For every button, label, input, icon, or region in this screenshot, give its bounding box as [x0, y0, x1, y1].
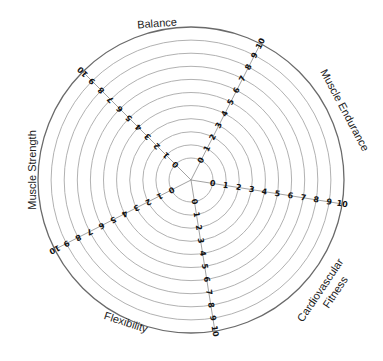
tick-label: 4 — [198, 250, 208, 257]
tick-label: 5 — [274, 189, 281, 199]
tick-label: 3 — [132, 203, 141, 214]
tick-label: 10 — [47, 243, 61, 256]
tick-label: 9 — [326, 197, 333, 207]
tick-label: 2 — [235, 183, 242, 193]
tick-label: 4 — [220, 109, 231, 118]
radar-chart: 0123456789100123456789100123456789100123… — [0, 0, 383, 361]
tick-label: 8 — [206, 302, 216, 309]
tick-label: 4 — [120, 209, 129, 220]
tick-label: 6 — [231, 85, 242, 94]
category-label: Muscle Strength — [26, 130, 38, 209]
tick-label: 9 — [249, 50, 260, 59]
tick-label: 2 — [208, 133, 219, 142]
tick-label: 5 — [108, 214, 117, 225]
tick-label: 0 — [196, 155, 207, 164]
tick-label: 7 — [204, 289, 214, 296]
tick-label: 6 — [287, 191, 294, 201]
tick-label: 7 — [85, 226, 94, 237]
tick-label: 7 — [300, 193, 307, 203]
tick-label: 5 — [225, 97, 236, 106]
tick-label: 2 — [194, 224, 204, 231]
tick-label: 3 — [196, 237, 206, 244]
tick-label: 1 — [155, 191, 164, 202]
tick-label: 10 — [336, 199, 349, 210]
category-labels: BalanceMuscle EnduranceCardiovascularFit… — [26, 16, 372, 335]
tick-label: 3 — [214, 121, 225, 130]
tick-labels: 0123456789100123456789100123456789100123… — [47, 36, 348, 337]
tick-label: 8 — [73, 232, 82, 243]
tick-label: 6 — [96, 220, 105, 231]
tick-label: 6 — [202, 276, 212, 283]
tick-label: 0 — [166, 185, 175, 196]
tick-label: 4 — [261, 187, 268, 197]
tick-label: 8 — [243, 62, 254, 71]
category-label: Flexibility — [103, 309, 150, 335]
tick-label: 10 — [210, 325, 221, 338]
tick-label: 0 — [209, 179, 216, 189]
tick-label: 9 — [61, 238, 70, 249]
tick-label: 1 — [222, 181, 229, 191]
tick-label: 10 — [254, 36, 267, 50]
tick-label: 3 — [248, 185, 255, 195]
tick-label: 5 — [200, 263, 210, 270]
tick-label: 7 — [237, 74, 248, 83]
tick-label: 1 — [202, 144, 213, 153]
tick-label: 2 — [144, 197, 153, 208]
tick-label: 0 — [190, 198, 200, 205]
tick-label: 8 — [313, 195, 320, 205]
tick-label: 9 — [208, 315, 218, 322]
tick-label: 1 — [192, 211, 202, 218]
